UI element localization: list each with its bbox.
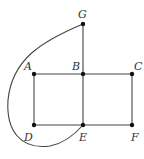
node-g — [81, 22, 85, 26]
graph-diagram: GABCDEF — [0, 0, 144, 159]
node-a — [32, 72, 36, 76]
node-label-f: F — [130, 131, 139, 144]
node-label-c: C — [134, 60, 143, 73]
edge-g-e — [8, 24, 83, 147]
node-label-g: G — [78, 8, 87, 21]
node-f — [130, 123, 134, 127]
edges — [8, 24, 132, 147]
node-label-e: E — [78, 131, 87, 144]
node-d — [32, 123, 36, 127]
node-label-b: B — [71, 60, 80, 73]
node-label-d: D — [23, 131, 33, 144]
node-e — [81, 123, 85, 127]
node-b — [81, 72, 85, 76]
node-label-a: A — [23, 60, 32, 73]
